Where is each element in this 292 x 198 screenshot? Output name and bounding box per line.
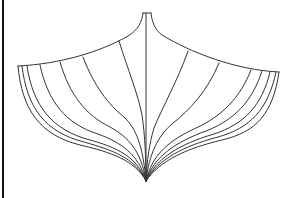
- hull-body-plan: [0, 0, 292, 198]
- station-left-1: [18, 66, 146, 181]
- station-right-7: [146, 72, 279, 181]
- station-right-4: [146, 71, 262, 181]
- figure-canvas: Boat hull body plan: [0, 0, 292, 198]
- station-right-6: [146, 72, 276, 181]
- station-left-6: [83, 57, 146, 181]
- station-right-5: [146, 72, 270, 181]
- sheer-right: [151, 13, 279, 72]
